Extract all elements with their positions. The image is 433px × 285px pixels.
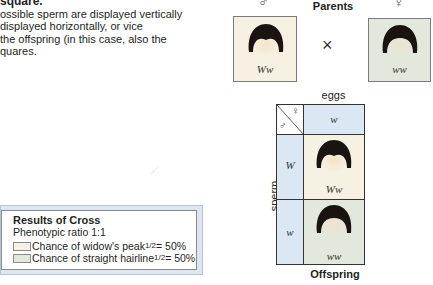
intro-line: ossible sperm are displayed vertically <box>0 8 182 20</box>
legend-percent: = 50% <box>165 252 195 264</box>
widows-peak-hair-icon <box>246 22 286 58</box>
intro-title: square. <box>0 0 230 8</box>
results-box: Results of Cross Phenotypic ratio 1:1 Ch… <box>0 205 203 275</box>
offspring-genotype: ww <box>304 250 364 262</box>
corner-cell: ♀ ♂ <box>277 105 304 135</box>
legend-fraction: 1/2 <box>145 240 156 252</box>
cross-symbol-icon: × <box>322 35 333 56</box>
straight-hairline-hair-icon <box>380 23 420 59</box>
egg-allele-header: w <box>304 105 364 135</box>
intro-line: the offspring (in this case, also the <box>0 33 167 45</box>
sperm-allele: W <box>277 159 303 171</box>
corner-male-symbol-icon: ♂ <box>279 120 287 131</box>
intro-line: displayed horizontally, or vice <box>0 20 143 32</box>
offspring-cell: Ww <box>304 135 364 200</box>
straight-hairline-hair-icon <box>314 203 354 239</box>
legend-item: Chance of straight hairline 1/2 = 50% <box>13 252 196 264</box>
offspring-genotype: Ww <box>304 183 364 195</box>
legend-text: Chance of widow's peak <box>32 240 145 252</box>
male-symbol-icon: ♂ <box>258 0 269 9</box>
legend-percent: = 50% <box>156 240 186 252</box>
straight-hairline-swatch <box>13 254 31 263</box>
widows-peak-hair-icon <box>314 138 354 174</box>
egg-allele: w <box>304 113 364 125</box>
phenotypic-ratio: Phenotypic ratio 1:1 <box>13 226 196 238</box>
male-parent-card: Ww <box>233 16 297 82</box>
sperm-allele-header: W <box>277 135 304 200</box>
widows-peak-swatch <box>13 242 31 251</box>
sperm-allele-header: w <box>277 200 304 264</box>
female-symbol-icon: ♀ <box>393 0 404 9</box>
intro-text: square. ossible sperm are displayed vert… <box>0 0 230 58</box>
offspring-cell: ww <box>304 200 364 264</box>
stray-mark <box>150 165 160 175</box>
sperm-allele: w <box>277 226 303 238</box>
intro-line: quares. <box>0 45 37 57</box>
eggs-label: eggs <box>303 89 364 101</box>
results-title: Results of Cross <box>13 214 196 226</box>
legend-text: Chance of straight hairline <box>32 252 154 264</box>
offspring-label: Offspring <box>290 268 380 280</box>
female-genotype: ww <box>369 63 430 75</box>
punnett-square: ♀ ♂ w W Ww w ww <box>276 104 365 265</box>
corner-female-symbol-icon: ♀ <box>292 105 300 116</box>
legend-item: Chance of widow's peak 1/2 = 50% <box>13 240 196 252</box>
male-genotype: Ww <box>234 63 296 75</box>
results-panel: Results of Cross Phenotypic ratio 1:1 Ch… <box>1 210 197 270</box>
parents-label: Parents <box>301 0 365 12</box>
female-parent-card: ww <box>368 18 431 82</box>
legend-fraction: 1/2 <box>154 252 165 264</box>
